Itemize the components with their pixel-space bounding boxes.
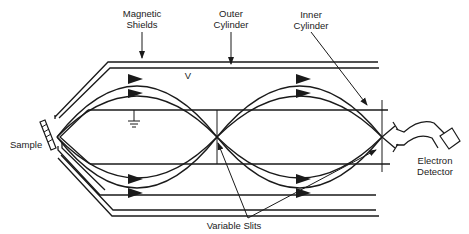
- electron-detector: [382, 122, 460, 152]
- variable-slits-pointer-2: [248, 150, 376, 218]
- svg-text:Shields: Shields: [126, 19, 157, 30]
- svg-text:Cylinder: Cylinder: [294, 20, 329, 31]
- trajectory-arrows: [128, 74, 311, 198]
- svg-text:Cylinder: Cylinder: [214, 19, 249, 30]
- label-magnetic-shields: Magnetic Shields: [123, 8, 162, 30]
- cma-diagram: Magnetic Shields Outer Cylinder Inner Cy…: [0, 0, 469, 234]
- svg-text:Outer: Outer: [219, 8, 243, 19]
- label-outer-cylinder: Outer Cylinder: [214, 8, 249, 30]
- ground-icon: [128, 110, 140, 127]
- svg-text:Inner: Inner: [300, 9, 322, 20]
- label-electron-detector: Electron Detector: [417, 155, 453, 177]
- label-inner-cylinder: Inner Cylinder: [294, 9, 329, 31]
- sample-holder: [40, 120, 56, 150]
- label-variable-slits: Variable Slits: [207, 220, 262, 231]
- svg-text:Electron: Electron: [418, 155, 453, 166]
- outer-cylinder: [55, 115, 376, 195]
- svg-text:Magnetic: Magnetic: [123, 8, 162, 19]
- svg-text:Detector: Detector: [417, 166, 453, 177]
- label-sample: Sample: [10, 139, 42, 150]
- label-voltage: V: [185, 70, 192, 81]
- inner-cylinder: [60, 110, 390, 164]
